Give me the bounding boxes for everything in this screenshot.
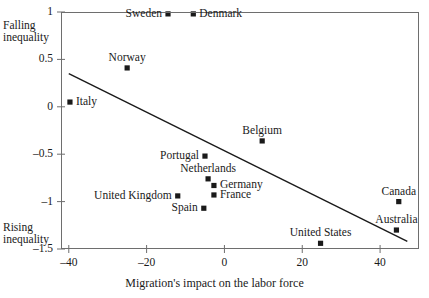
data-point-label: Portugal	[160, 150, 199, 162]
data-point-label: Spain	[172, 202, 198, 214]
data-point-label: Australia	[375, 214, 417, 226]
data-point-label: Canada	[382, 186, 416, 198]
x-tick-label: 40	[374, 257, 386, 269]
x-tick-label: 20	[297, 257, 309, 269]
y-tick-label: 0	[47, 101, 53, 113]
data-point-label: Italy	[76, 96, 97, 108]
y-tick-label: 1	[47, 6, 53, 18]
x-tick-label: 0	[222, 257, 228, 269]
x-tick-label: –20	[138, 257, 155, 269]
falling-inequality-note-line2: inequality	[3, 31, 49, 45]
rising-inequality-note-line2: inequality	[3, 233, 49, 247]
data-point-label: Netherlands	[180, 163, 236, 175]
data-point-label: United States	[290, 228, 352, 240]
data-point-label: Denmark	[199, 8, 242, 20]
data-point-label: France	[220, 189, 251, 201]
scatter-chart-figure: –1.5–1–0.500.51 –40–2002040 Fallinginequ…	[0, 0, 429, 298]
data-point-label: Norway	[109, 52, 146, 64]
data-point-label: United Kingdom	[94, 190, 172, 202]
x-tick-label: –40	[60, 257, 77, 269]
y-tick-label: –0.5	[33, 148, 53, 160]
y-tick-label: 0.5	[39, 54, 53, 66]
y-tick-label: –1	[42, 196, 54, 208]
plot-area-frame	[61, 12, 419, 249]
x-axis-title: Migration's impact on the labor force	[0, 276, 429, 291]
data-point-label: Sweden	[126, 8, 162, 20]
data-point-label: Belgium	[242, 125, 282, 137]
